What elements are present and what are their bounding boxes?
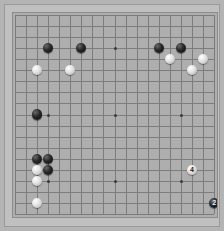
stone-black[interactable] bbox=[154, 43, 164, 53]
stone-black[interactable] bbox=[32, 109, 42, 119]
stone-white[interactable] bbox=[32, 198, 42, 208]
board-frame: 4253 bbox=[4, 4, 220, 227]
stone-white[interactable] bbox=[198, 54, 208, 64]
stone-white[interactable] bbox=[165, 54, 175, 64]
grid-line-vertical bbox=[148, 15, 149, 214]
hoshi-point bbox=[114, 180, 117, 183]
stone-move-number: 4 bbox=[190, 166, 194, 173]
stone-white[interactable] bbox=[32, 65, 42, 75]
hoshi-point bbox=[47, 180, 50, 183]
grid-line-vertical bbox=[192, 15, 193, 214]
grid-line-vertical bbox=[214, 15, 215, 214]
grid-line-horizontal bbox=[15, 148, 214, 149]
grid-line-horizontal bbox=[15, 203, 214, 204]
grid-line-vertical bbox=[203, 15, 204, 214]
grid-line-horizontal bbox=[15, 126, 214, 127]
grid-line-horizontal bbox=[15, 137, 214, 138]
stone-black[interactable] bbox=[43, 165, 53, 175]
stone-black[interactable] bbox=[176, 43, 186, 53]
grid-line-vertical bbox=[137, 15, 138, 214]
stone-white[interactable] bbox=[187, 65, 197, 75]
grid-line-horizontal bbox=[15, 214, 214, 215]
hoshi-point bbox=[180, 114, 183, 117]
go-board[interactable]: 4253 bbox=[12, 12, 218, 218]
stone-black[interactable] bbox=[43, 43, 53, 53]
grid-line-horizontal bbox=[15, 192, 214, 193]
hoshi-point bbox=[47, 114, 50, 117]
stone-white[interactable] bbox=[65, 65, 75, 75]
stone-black[interactable] bbox=[32, 154, 42, 164]
stone-white[interactable] bbox=[32, 176, 42, 186]
grid-line-vertical bbox=[170, 15, 171, 214]
hoshi-point bbox=[114, 47, 117, 50]
numbered-stone-black[interactable]: 2 bbox=[209, 198, 218, 208]
stone-black[interactable] bbox=[43, 154, 53, 164]
stone-black[interactable] bbox=[76, 43, 86, 53]
stone-white[interactable] bbox=[32, 165, 42, 175]
numbered-stone-white[interactable]: 4 bbox=[187, 165, 197, 175]
stone-move-number: 2 bbox=[212, 199, 216, 206]
grid-line-vertical bbox=[126, 15, 127, 214]
hoshi-point bbox=[114, 114, 117, 117]
hoshi-point bbox=[180, 180, 183, 183]
go-board-app: 4253 bbox=[0, 0, 224, 231]
